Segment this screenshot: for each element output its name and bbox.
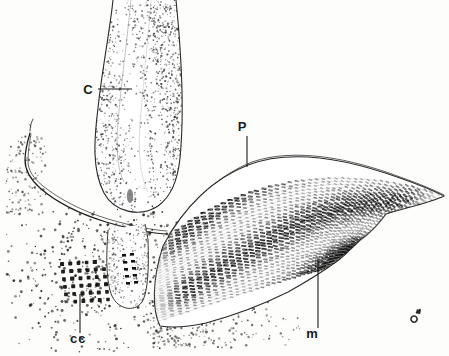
label-p: P <box>238 119 247 134</box>
figure-root: C P m cc <box>0 0 449 356</box>
label-cc: cc <box>70 331 86 346</box>
lower-bulb <box>103 221 152 316</box>
anatomical-illustration: C P m cc <box>0 0 449 356</box>
label-c: C <box>83 82 93 97</box>
artist-monogram <box>411 309 421 322</box>
label-m: m <box>306 326 318 341</box>
hatched-muscle-mass <box>147 155 446 327</box>
curved-organ <box>89 0 187 218</box>
